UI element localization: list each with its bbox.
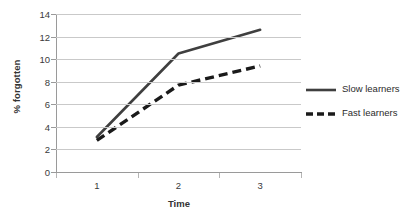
legend-entry[interactable]: Fast learners [306, 100, 406, 124]
gridline [56, 82, 301, 83]
y-tick-label: 6 [26, 99, 50, 110]
gridline [56, 37, 301, 38]
gridline [56, 127, 301, 128]
y-tick-label: 10 [26, 54, 50, 65]
gridline [56, 14, 301, 15]
x-tick-mark [138, 173, 139, 178]
legend-label: Fast learners [342, 107, 397, 118]
x-tick-label: 1 [94, 180, 99, 191]
gridline [56, 59, 301, 60]
y-tick-mark [51, 127, 56, 128]
y-tick-label: 4 [26, 121, 50, 132]
plot-area [56, 14, 301, 172]
x-tick-mark [219, 173, 220, 178]
y-tick-label: 2 [26, 144, 50, 155]
legend-swatch-icon [306, 82, 336, 94]
y-tick-label: 8 [26, 76, 50, 87]
gridline [56, 149, 301, 150]
series-lines [56, 14, 301, 172]
legend-label: Slow learners [342, 83, 400, 94]
gridline [56, 104, 301, 105]
y-tick-mark [51, 82, 56, 83]
x-tick-label: 2 [176, 180, 181, 191]
legend-entry[interactable]: Slow learners [306, 76, 406, 100]
y-axis-tick-labels: 02468101214 [26, 0, 50, 180]
series-line [97, 66, 260, 140]
x-axis-line [56, 172, 302, 173]
y-tick-mark [51, 14, 56, 15]
y-tick-label: 0 [26, 167, 50, 178]
x-tick-mark [56, 173, 57, 178]
x-tick-mark [301, 173, 302, 178]
legend-swatch-icon [306, 106, 336, 118]
y-axis-title-text: % forgotten [12, 59, 23, 113]
y-tick-label: 12 [26, 31, 50, 42]
line-chart: % forgotten 02468101214 123 Time Slow le… [0, 0, 411, 223]
y-tick-mark [51, 59, 56, 60]
x-tick-label: 3 [258, 180, 263, 191]
y-axis-title: % forgotten [8, 0, 26, 172]
y-tick-mark [51, 149, 56, 150]
y-tick-mark [51, 37, 56, 38]
y-tick-mark [51, 104, 56, 105]
y-tick-label: 14 [26, 9, 50, 20]
chart-legend: Slow learnersFast learners [306, 76, 406, 124]
x-axis-title: Time [56, 198, 302, 209]
